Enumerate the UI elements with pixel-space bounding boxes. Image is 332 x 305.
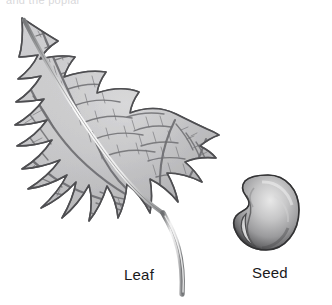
seed-illustration (234, 175, 299, 250)
botanical-figure-plate: and the poplar (0, 0, 332, 305)
seed-label: Seed (252, 264, 288, 281)
illustration-canvas (0, 0, 332, 305)
leaf-illustration (0, 0, 332, 305)
leaf-label: Leaf (124, 266, 154, 283)
leaf-petiole-edge (163, 213, 182, 294)
